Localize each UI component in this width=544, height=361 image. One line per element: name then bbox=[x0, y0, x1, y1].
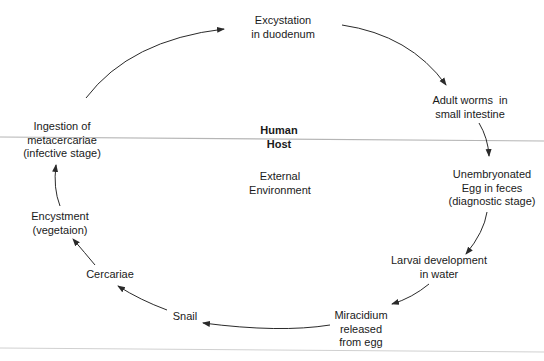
node-text: Snail bbox=[173, 310, 197, 324]
arrow-encystment-to-ingestion bbox=[55, 165, 60, 206]
node-text: Larvai development bbox=[391, 254, 487, 268]
node-text: metacercariae bbox=[23, 134, 101, 148]
node-text: Egg in feces bbox=[449, 182, 536, 196]
node-text: from egg bbox=[334, 336, 387, 350]
node-text: in water bbox=[391, 268, 487, 282]
node-cercariae: Cercariae bbox=[86, 268, 134, 282]
external-environment-label: External Environment bbox=[249, 170, 311, 197]
node-adult-worms: Adult worms in small intestine bbox=[432, 94, 507, 121]
life-cycle-diagram: Human Host External Environment Excystat… bbox=[0, 0, 544, 361]
node-excystation: Excystation in duodenum bbox=[251, 14, 315, 41]
human-host-line-1: Human bbox=[260, 124, 297, 138]
node-text: in duodenum bbox=[251, 28, 315, 42]
node-text: (diagnostic stage) bbox=[449, 195, 536, 209]
node-text: Ingestion of bbox=[23, 120, 101, 134]
arrow-adult-to-egg bbox=[479, 123, 489, 156]
node-text: Encystment bbox=[31, 210, 88, 224]
node-unembryonated-egg: Unembryonated Egg in feces (diagnostic s… bbox=[449, 168, 536, 209]
arrow-egg-to-larval bbox=[466, 212, 487, 254]
node-text: Excystation bbox=[251, 14, 315, 28]
arrow-ingestion-to-excystation bbox=[86, 29, 224, 98]
bottom-edge-line bbox=[0, 348, 544, 352]
node-text: released bbox=[334, 323, 387, 337]
external-environment-line-1: External bbox=[249, 170, 311, 184]
node-text: (vegetaion) bbox=[31, 224, 88, 238]
arrow-excystation-to-adult bbox=[342, 25, 446, 85]
node-miracidium: Miracidium released from egg bbox=[334, 309, 387, 350]
node-text: Unembryonated bbox=[449, 168, 536, 182]
human-host-label: Human Host bbox=[260, 124, 297, 151]
external-environment-line-2: Environment bbox=[249, 184, 311, 198]
arrow-miracidium-to-snail bbox=[203, 323, 330, 329]
node-encystment: Encystment (vegetaion) bbox=[31, 210, 88, 237]
node-ingestion: Ingestion of metacercariae (infective st… bbox=[23, 120, 101, 161]
node-larval-development: Larvai development in water bbox=[391, 254, 487, 281]
arrow-larval-to-miracidium bbox=[392, 284, 429, 304]
arrow-cercariae-to-encystment bbox=[73, 239, 95, 265]
node-snail: Snail bbox=[173, 310, 197, 324]
human-host-line-2: Host bbox=[260, 138, 297, 152]
node-text: Cercariae bbox=[86, 268, 134, 282]
arrow-snail-to-cercariae bbox=[118, 286, 167, 310]
node-text: (infective stage) bbox=[23, 147, 101, 161]
node-text: Adult worms in bbox=[432, 94, 507, 108]
node-text: Miracidium bbox=[334, 309, 387, 323]
node-text: small intestine bbox=[432, 108, 507, 122]
